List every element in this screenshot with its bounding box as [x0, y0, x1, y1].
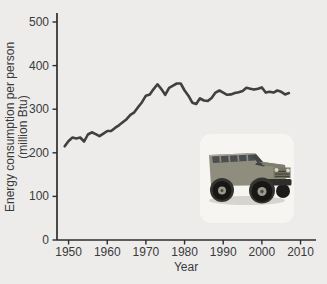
front-hub-center: [260, 190, 263, 193]
window-pillar: [247, 155, 248, 161]
x-tick-label: 1950: [55, 245, 82, 259]
y-tick-label: 500: [29, 15, 49, 29]
x-tick-label: 1960: [94, 245, 121, 259]
window-pillar: [229, 155, 230, 162]
y-tick-label: 0: [42, 233, 49, 247]
x-tick-label: 2000: [249, 245, 276, 259]
x-axis-title: Year: [174, 260, 198, 274]
y-axis-title-line2: (million Btu): [16, 95, 30, 158]
y-tick-label: 100: [29, 189, 49, 203]
window-pillar: [238, 155, 239, 162]
y-tick-label: 200: [29, 146, 49, 160]
x-tick-label: 1970: [133, 245, 160, 259]
rear-hub-center: [221, 189, 224, 192]
energy-consumption-figure: 1950196019701980199020002010010020030040…: [0, 0, 327, 284]
x-tick-label: 1980: [171, 245, 198, 259]
headlight: [286, 169, 290, 173]
hummer-suv-photo: [200, 134, 294, 223]
y-tick-label: 400: [29, 59, 49, 73]
window-pillar: [220, 156, 221, 163]
x-tick-label: 1990: [210, 245, 237, 259]
y-tick-label: 300: [29, 102, 49, 116]
far-front-tire: [276, 184, 290, 198]
hummer-photo-panel: [200, 134, 294, 223]
headlight: [275, 168, 279, 172]
x-tick-label: 2010: [287, 245, 314, 259]
